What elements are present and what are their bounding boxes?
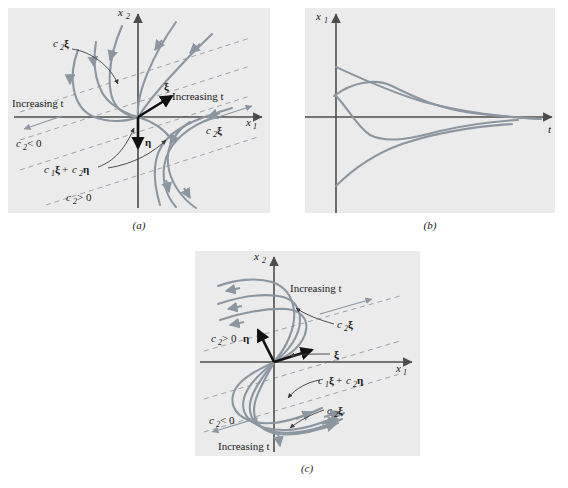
panel-b-background [305, 8, 555, 213]
panel-b-caption: (b) [410, 219, 450, 231]
figure-root: x 2 x 1 c 2 ξ Increasing t Increasing t … [0, 0, 568, 488]
panel-a-caption: (a) [119, 219, 159, 231]
panel-a-background [8, 8, 270, 213]
panel-c-background [195, 251, 420, 456]
panel-c-caption: (c) [287, 462, 327, 474]
